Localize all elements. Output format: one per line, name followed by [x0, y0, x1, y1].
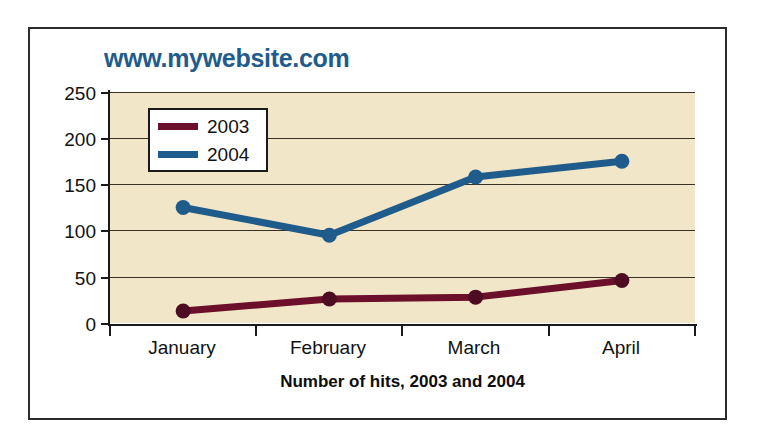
legend: 2003 2004: [148, 108, 268, 172]
x-tick-0: [109, 326, 111, 336]
y-tick-50: [101, 277, 110, 279]
y-axis-label-100: 100: [36, 222, 96, 241]
y-axis-label-150: 150: [36, 176, 96, 195]
gridline-150: [110, 184, 695, 185]
x-tick-4: [694, 326, 696, 336]
gridline-50: [110, 277, 695, 278]
x-axis-label-march: March: [394, 338, 554, 357]
x-tick-2: [401, 326, 403, 336]
legend-entry-2003: 2003: [158, 115, 249, 137]
y-tick-150: [101, 184, 110, 186]
y-tick-100: [101, 230, 110, 232]
y-tick-250: [101, 92, 110, 94]
y-axis-line: [108, 90, 110, 326]
y-tick-200: [101, 138, 110, 140]
x-axis-label-april: April: [541, 338, 701, 357]
x-tick-1: [255, 326, 257, 336]
legend-swatch-2003: [158, 123, 198, 130]
chart-page: www.mywebsite.com 250 200 150 100 50 0 J…: [0, 0, 757, 447]
x-axis-label-february: February: [248, 338, 408, 357]
x-axis-title: Number of hits, 2003 and 2004: [110, 372, 695, 392]
y-axis-label-200: 200: [36, 130, 96, 149]
y-tick-0: [101, 323, 110, 325]
y-axis-label-50: 50: [36, 269, 96, 288]
y-axis-label-250: 250: [36, 84, 96, 103]
gridline-100: [110, 230, 695, 231]
legend-label-2004: 2004: [207, 145, 249, 164]
x-axis-label-january: January: [102, 338, 262, 357]
page-title: www.mywebsite.com: [104, 44, 349, 73]
x-tick-3: [548, 326, 550, 336]
legend-label-2003: 2003: [207, 117, 249, 136]
gridline-250: [110, 92, 695, 93]
y-axis-label-0: 0: [36, 315, 96, 334]
legend-swatch-2004: [158, 151, 198, 158]
legend-entry-2004: 2004: [158, 143, 249, 165]
